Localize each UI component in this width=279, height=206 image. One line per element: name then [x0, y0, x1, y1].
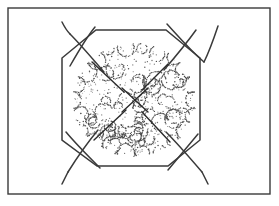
figure-canvas [0, 0, 279, 206]
line-drawing-figure [0, 0, 279, 206]
